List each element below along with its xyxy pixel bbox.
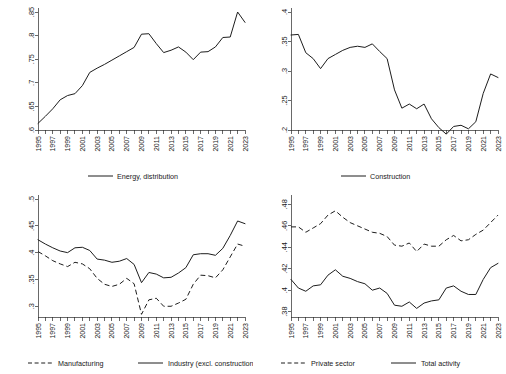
svg-text:2017: 2017 [197, 323, 204, 339]
svg-text:2013: 2013 [421, 323, 428, 339]
svg-text:.44: .44 [280, 242, 289, 252]
svg-text:2013: 2013 [421, 136, 428, 152]
svg-text:.4: .4 [27, 250, 36, 256]
svg-text:.4: .4 [280, 9, 289, 15]
svg-text:Manufacturing: Manufacturing [58, 359, 104, 368]
svg-text:1999: 1999 [317, 323, 324, 339]
svg-text:.4: .4 [280, 287, 289, 293]
panel-energy-distribution: .6.65.7.75.8.851995199719992001200320052… [0, 0, 253, 187]
svg-text:2005: 2005 [108, 323, 115, 339]
svg-text:2013: 2013 [168, 136, 175, 152]
svg-text:2003: 2003 [94, 136, 101, 152]
panel-total-activity-private-sector-plot: .38.4.42.44.46.4819951997199920012003200… [253, 187, 506, 374]
svg-text:2001: 2001 [79, 136, 86, 152]
svg-text:.5: .5 [27, 196, 36, 202]
svg-text:2019: 2019 [465, 136, 472, 152]
panel-industry-manufacturing: .3.35.4.45.51995199719992001200320052007… [0, 187, 253, 374]
svg-text:2021: 2021 [227, 136, 234, 152]
svg-text:2017: 2017 [197, 136, 204, 152]
svg-text:2015: 2015 [182, 323, 189, 339]
panel-industry-manufacturing-plot: .3.35.4.45.51995199719992001200320052007… [0, 187, 253, 374]
svg-text:2001: 2001 [332, 136, 339, 152]
energy-distribution-svg: .6.65.7.75.8.851995199719992001200320052… [0, 0, 253, 187]
svg-text:2013: 2013 [168, 323, 175, 339]
svg-text:2009: 2009 [138, 136, 145, 152]
svg-text:1997: 1997 [302, 323, 309, 339]
svg-text:Energy, distribution: Energy, distribution [117, 172, 178, 181]
svg-text:1999: 1999 [64, 323, 71, 339]
svg-text:2015: 2015 [435, 323, 442, 339]
svg-text:Construction: Construction [370, 172, 410, 181]
svg-text:2021: 2021 [227, 323, 234, 339]
svg-text:2009: 2009 [391, 323, 398, 339]
svg-text:2019: 2019 [212, 136, 219, 152]
svg-text:1995: 1995 [288, 136, 295, 152]
svg-text:.85: .85 [27, 7, 36, 17]
multi-panel-line-chart-figure: .6.65.7.75.8.851995199719992001200320052… [0, 0, 506, 374]
construction-svg: .2.25.3.35.41995199719992001200320052007… [253, 0, 506, 187]
svg-text:2017: 2017 [450, 323, 457, 339]
svg-text:.7: .7 [27, 80, 36, 86]
svg-text:2021: 2021 [480, 323, 487, 339]
svg-text:1995: 1995 [35, 323, 42, 339]
total-activity-private-sector-svg: .38.4.42.44.46.4819951997199920012003200… [253, 187, 506, 374]
svg-text:2007: 2007 [123, 136, 130, 152]
svg-text:2003: 2003 [347, 323, 354, 339]
svg-text:.46: .46 [280, 221, 289, 231]
svg-text:1997: 1997 [49, 323, 56, 339]
svg-text:2001: 2001 [79, 323, 86, 339]
svg-text:2009: 2009 [391, 136, 398, 152]
svg-text:1995: 1995 [288, 323, 295, 339]
svg-text:.42: .42 [280, 264, 289, 274]
industry-manufacturing-svg: .3.35.4.45.51995199719992001200320052007… [0, 187, 253, 374]
svg-text:.38: .38 [280, 306, 289, 316]
svg-text:2023: 2023 [242, 136, 249, 152]
svg-text:2001: 2001 [332, 323, 339, 339]
svg-text:2023: 2023 [242, 323, 249, 339]
svg-text:2011: 2011 [406, 136, 413, 151]
svg-text:2005: 2005 [361, 136, 368, 152]
svg-text:2007: 2007 [123, 323, 130, 339]
svg-text:2021: 2021 [480, 136, 487, 152]
panel-construction-plot: .2.25.3.35.41995199719992001200320052007… [253, 0, 506, 187]
svg-text:2005: 2005 [361, 323, 368, 339]
svg-text:2023: 2023 [495, 323, 502, 339]
svg-text:.35: .35 [27, 274, 36, 284]
svg-text:.75: .75 [27, 54, 36, 64]
svg-text:1999: 1999 [317, 136, 324, 152]
svg-text:2003: 2003 [347, 136, 354, 152]
svg-text:2005: 2005 [108, 136, 115, 152]
svg-text:.3: .3 [27, 303, 36, 309]
svg-text:.2: .2 [280, 127, 289, 133]
svg-text:.3: .3 [280, 68, 289, 74]
svg-text:2007: 2007 [376, 136, 383, 152]
svg-text:2019: 2019 [212, 323, 219, 339]
svg-text:1999: 1999 [64, 136, 71, 152]
svg-text:.8: .8 [27, 33, 36, 39]
svg-text:2015: 2015 [182, 136, 189, 152]
svg-text:.45: .45 [27, 221, 36, 231]
svg-text:2023: 2023 [495, 136, 502, 152]
svg-text:2019: 2019 [465, 323, 472, 339]
svg-text:2017: 2017 [450, 136, 457, 152]
svg-text:2015: 2015 [435, 136, 442, 152]
svg-text:1997: 1997 [302, 136, 309, 152]
svg-text:Private sector: Private sector [311, 359, 356, 368]
svg-text:2003: 2003 [94, 323, 101, 339]
svg-text:Industry (excl. construction): Industry (excl. construction) [168, 359, 253, 368]
panel-energy-distribution-plot: .6.65.7.75.8.851995199719992001200320052… [0, 0, 253, 187]
svg-text:2011: 2011 [153, 136, 160, 151]
svg-text:2011: 2011 [406, 323, 413, 338]
svg-text:2007: 2007 [376, 323, 383, 339]
svg-text:.25: .25 [280, 95, 289, 105]
svg-text:.6: .6 [27, 127, 36, 133]
svg-text:1997: 1997 [49, 136, 56, 152]
svg-text:2011: 2011 [153, 323, 160, 338]
svg-text:1995: 1995 [35, 136, 42, 152]
panel-construction: .2.25.3.35.41995199719992001200320052007… [253, 0, 506, 187]
svg-text:.65: .65 [27, 101, 36, 111]
svg-text:.35: .35 [280, 36, 289, 46]
svg-text:.48: .48 [280, 199, 289, 209]
svg-text:2009: 2009 [138, 323, 145, 339]
panel-total-activity-private-sector: .38.4.42.44.46.4819951997199920012003200… [253, 187, 506, 374]
